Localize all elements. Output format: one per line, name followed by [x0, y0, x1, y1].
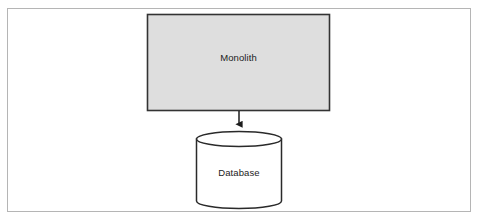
database-label: Database — [218, 167, 259, 178]
architecture-diagram: Monolith Database — [0, 0, 479, 221]
monolith-label: Monolith — [220, 52, 257, 63]
node-monolith[interactable]: Monolith — [148, 15, 330, 111]
database-cylinder-top — [197, 132, 282, 147]
figure-root: Monolith Database — [0, 0, 479, 221]
node-database[interactable]: Database — [197, 132, 282, 209]
